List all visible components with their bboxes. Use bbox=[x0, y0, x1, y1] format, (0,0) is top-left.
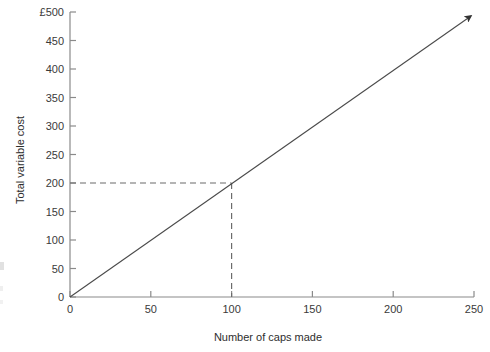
y-tick-label: 50 bbox=[22, 263, 64, 275]
y-tick-label: 0 bbox=[22, 291, 64, 303]
y-tick-label: 200 bbox=[22, 177, 64, 189]
chart-figure: £500 450 400 350 300 250 200 150 100 50 … bbox=[0, 0, 490, 352]
y-tick-label: 250 bbox=[22, 149, 64, 161]
x-tick-label: 0 bbox=[67, 303, 73, 315]
y-tick-label: 100 bbox=[22, 234, 64, 246]
y-tick-label: 150 bbox=[22, 206, 64, 218]
x-tick-label: 150 bbox=[303, 303, 321, 315]
y-axis-ticks bbox=[70, 12, 76, 297]
y-tick-label: 300 bbox=[22, 120, 64, 132]
x-tick-label: 50 bbox=[145, 303, 157, 315]
y-tick-label: £500 bbox=[22, 6, 64, 18]
variable-cost-line bbox=[70, 16, 471, 297]
x-axis-title: Number of caps made bbox=[214, 331, 322, 343]
x-axis-ticks bbox=[70, 291, 474, 297]
x-tick-label: 100 bbox=[222, 303, 240, 315]
y-tick-label: 350 bbox=[22, 92, 64, 104]
x-tick-label: 200 bbox=[384, 303, 402, 315]
y-tick-label: 450 bbox=[22, 35, 64, 47]
y-axis-title: Total variable cost bbox=[14, 116, 26, 204]
x-tick-label: 250 bbox=[465, 303, 483, 315]
plot-area bbox=[0, 0, 490, 352]
y-tick-label: 400 bbox=[22, 63, 64, 75]
